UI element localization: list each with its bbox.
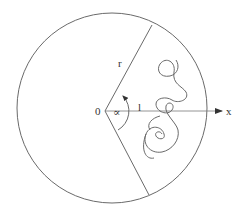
wedge-random-walk-diagram: r 0 ∝ l x xyxy=(0,0,243,211)
lower-wedge-ray xyxy=(105,111,149,195)
x-axis-label: x xyxy=(226,105,232,117)
radius-label: r xyxy=(118,57,122,69)
boundary-circle xyxy=(17,13,207,203)
random-walk-path xyxy=(144,60,187,158)
length-label: l xyxy=(138,101,141,113)
upper-wedge-ray xyxy=(105,25,152,111)
origin-label: 0 xyxy=(95,105,101,117)
angle-label: ∝ xyxy=(113,106,120,118)
